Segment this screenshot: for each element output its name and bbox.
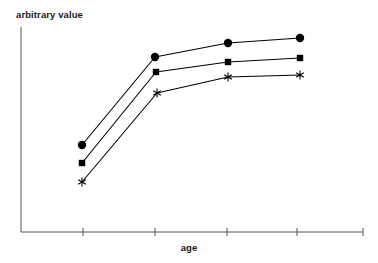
data-point-square [225,59,231,65]
plot-area [0,0,378,263]
data-point-square [153,69,159,75]
data-point-square [79,160,85,166]
series-lines [82,38,300,182]
data-point-circle [296,34,304,42]
data-point-circle [78,141,86,149]
series-markers [78,34,304,187]
data-point-circle [224,39,232,47]
line-chart: arbitrary value age [0,0,378,263]
series-line-asterisk [82,75,300,182]
series-line-square [82,58,300,163]
x-axis-label: age [0,243,378,253]
data-point-circle [151,53,159,61]
y-axis-label: arbitrary value [16,10,83,20]
axes [21,27,363,232]
series-line-circle [82,38,300,145]
data-point-square [297,55,303,61]
